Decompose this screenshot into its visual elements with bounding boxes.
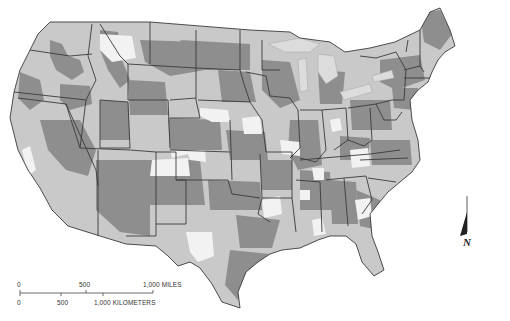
north-arrow-icon bbox=[460, 196, 467, 236]
scale-bar bbox=[20, 290, 153, 296]
scale-km-1000: 1,000 KILOMETERS bbox=[94, 299, 156, 306]
us-choropleth-map bbox=[0, 0, 510, 321]
scale-miles-1000: 1,000 MILES bbox=[143, 281, 182, 288]
scale-km-0: 0 bbox=[17, 299, 21, 306]
north-label: N bbox=[463, 236, 471, 248]
scale-miles-500: 500 bbox=[79, 281, 90, 288]
scale-km-500: 500 bbox=[57, 299, 68, 306]
scale-miles-0: 0 bbox=[17, 281, 21, 288]
